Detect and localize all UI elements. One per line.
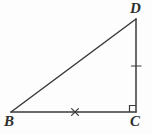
vertex-label-c: C xyxy=(130,114,140,129)
vertex-label-d: D xyxy=(130,1,141,16)
geometry-figure: D B C xyxy=(0,0,152,134)
vertex-label-b: B xyxy=(4,114,14,129)
side-db-hypotenuse-line xyxy=(11,19,136,112)
right-angle-square-marker xyxy=(130,106,137,113)
